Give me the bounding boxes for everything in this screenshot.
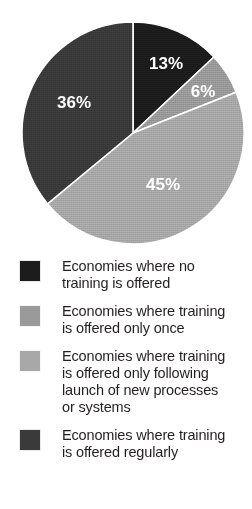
pie-chart-svg: 13%6%45%36% xyxy=(0,0,252,252)
legend-swatch xyxy=(19,305,41,327)
pie-slice-label: 45% xyxy=(146,175,180,194)
legend-item: Economies where training is offered regu… xyxy=(0,427,252,461)
chart-legend: Economies where no training is offeredEc… xyxy=(0,258,252,472)
legend-label: Economies where training is offered regu… xyxy=(62,427,252,461)
legend-item: Economies where training is offered only… xyxy=(0,348,252,416)
legend-swatch xyxy=(19,260,41,282)
legend-item: Economies where no training is offered xyxy=(0,258,252,292)
pie-chart: 13%6%45%36% xyxy=(0,0,252,252)
legend-swatch xyxy=(19,429,41,451)
pie-slice-label: 13% xyxy=(149,54,183,73)
legend-item: Economies where training is offered only… xyxy=(0,303,252,337)
pie-slice-label: 6% xyxy=(191,82,216,101)
legend-label: Economies where no training is offered xyxy=(62,258,252,292)
legend-swatch xyxy=(19,350,41,372)
pie-slice-label: 36% xyxy=(57,93,91,112)
legend-label: Economies where training is offered only… xyxy=(62,303,252,337)
legend-label: Economies where training is offered only… xyxy=(62,348,252,416)
pie-slice-group xyxy=(22,22,244,244)
